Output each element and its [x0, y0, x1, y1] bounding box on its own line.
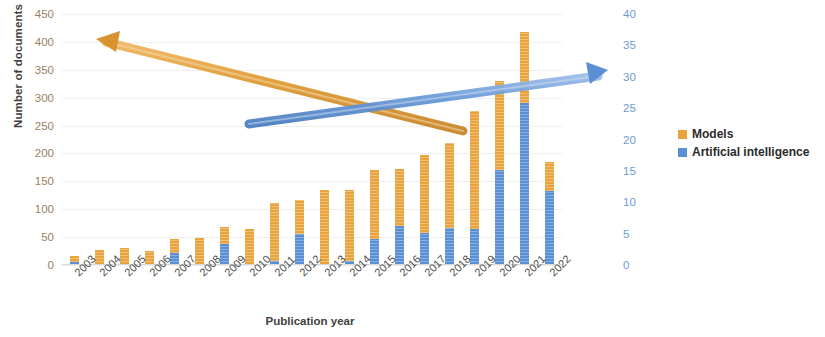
bar-2015[interactable] — [370, 170, 379, 265]
bar-segment-models — [270, 203, 279, 262]
bar-segment-artificial-intelligence — [495, 170, 504, 265]
bar-2014[interactable] — [345, 190, 354, 265]
secondary-y-axis-tick-0: 0 — [623, 259, 663, 271]
y-axis-tick-0: 0 — [14, 259, 54, 271]
gridline — [62, 14, 562, 15]
legend-label-models: Models — [692, 127, 733, 141]
y-axis-tick-450: 450 — [14, 8, 54, 20]
bar-2022[interactable] — [545, 162, 554, 265]
bar-segment-models — [545, 162, 554, 191]
legend: Models Artificial intelligence — [678, 127, 809, 163]
bar-2018[interactable] — [445, 143, 454, 265]
y-axis-tick-100: 100 — [14, 203, 54, 215]
secondary-y-axis-tick-25: 25 — [623, 102, 663, 114]
bar-segment-models — [345, 190, 354, 261]
y-axis-tick-150: 150 — [14, 175, 54, 187]
bar-2019[interactable] — [470, 111, 479, 265]
bar-segment-artificial-intelligence — [520, 103, 529, 265]
bar-segment-models — [220, 227, 229, 244]
secondary-y-axis-tick-10: 10 — [623, 196, 663, 208]
bar-2020[interactable] — [495, 81, 504, 265]
y-axis-tick-200: 200 — [14, 147, 54, 159]
gridline — [62, 42, 562, 43]
secondary-y-axis-tick-35: 35 — [623, 39, 663, 51]
secondary-y-axis-tick-40: 40 — [623, 8, 663, 20]
secondary-y-axis-tick-15: 15 — [623, 165, 663, 177]
bar-segment-models — [70, 256, 79, 262]
gridline — [62, 126, 562, 127]
legend-item-artificial-intelligence[interactable]: Artificial intelligence — [678, 145, 809, 159]
bar-segment-models — [445, 143, 454, 228]
bar-2021[interactable] — [520, 32, 529, 265]
bar-2016[interactable] — [395, 169, 404, 265]
gridline — [62, 153, 562, 154]
gridline — [62, 181, 562, 182]
y-axis-tick-400: 400 — [14, 36, 54, 48]
gridline — [62, 209, 562, 210]
x-axis-title: Publication year — [0, 315, 620, 327]
legend-swatch-artificial-intelligence — [678, 148, 687, 157]
bar-2012[interactable] — [295, 200, 304, 265]
y-axis-tick-300: 300 — [14, 92, 54, 104]
bar-segment-models — [170, 239, 179, 252]
chart-container: Number of documents Publication year 050… — [0, 0, 825, 337]
y-axis-tick-250: 250 — [14, 120, 54, 132]
gridline — [62, 98, 562, 99]
bar-segment-models — [370, 170, 379, 240]
bar-segment-models — [320, 190, 329, 265]
y-axis-tick-50: 50 — [14, 231, 54, 243]
bar-segment-models — [395, 169, 404, 226]
bar-segment-models — [495, 81, 504, 170]
y-axis-tick-350: 350 — [14, 64, 54, 76]
gridline — [62, 70, 562, 71]
y-axis-title: Number of documents — [12, 0, 24, 166]
bar-2011[interactable] — [270, 203, 279, 265]
gridline — [62, 237, 562, 238]
plot-area — [62, 14, 562, 265]
bar-2013[interactable] — [320, 190, 329, 265]
bar-segment-models — [420, 155, 429, 234]
bar-segment-models — [470, 111, 479, 229]
secondary-y-axis-tick-30: 30 — [623, 71, 663, 83]
secondary-y-axis-tick-5: 5 — [623, 228, 663, 240]
legend-item-models[interactable]: Models — [678, 127, 809, 141]
secondary-y-axis-tick-20: 20 — [623, 134, 663, 146]
legend-label-artificial-intelligence: Artificial intelligence — [692, 145, 809, 159]
bar-2017[interactable] — [420, 155, 429, 265]
legend-swatch-models — [678, 130, 687, 139]
bar-segment-models — [520, 32, 529, 103]
bar-segment-artificial-intelligence — [545, 191, 554, 265]
bar-segment-models — [295, 200, 304, 234]
